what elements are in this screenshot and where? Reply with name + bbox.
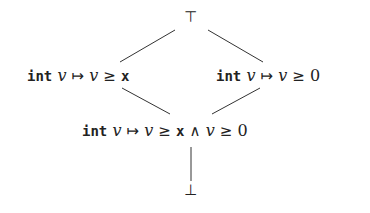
- edge-top-right: [208, 30, 263, 62]
- right-node: int v ↦ v ≥ 0: [216, 67, 320, 85]
- top-node: ⊤: [184, 8, 197, 26]
- bottom-node: ⊥: [184, 181, 197, 199]
- left-node: int v ↦ v ≥ x: [27, 67, 129, 85]
- edge-top-left: [120, 30, 175, 62]
- meet-node: int v ↦ v ≥ x ∧ v ≥ 0: [82, 122, 248, 140]
- edge-left-meet: [122, 88, 170, 114]
- keyword-int: int: [27, 68, 52, 84]
- edge-right-meet: [212, 88, 260, 114]
- keyword-int: int: [82, 123, 107, 139]
- keyword-int: int: [216, 68, 241, 84]
